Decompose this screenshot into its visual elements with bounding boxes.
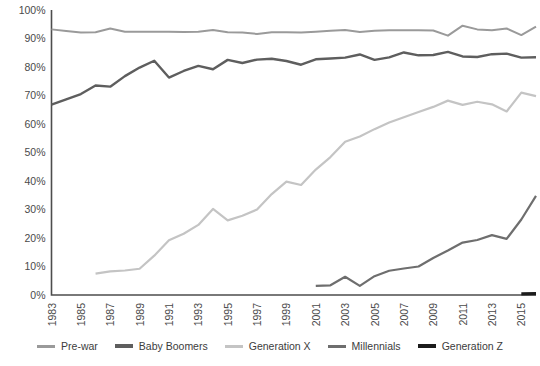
x-tick-label: 2015 xyxy=(515,303,527,327)
legend-item-label: Baby Boomers xyxy=(139,340,208,352)
axis-lines xyxy=(52,10,537,295)
x-tick-label: 2005 xyxy=(369,303,381,327)
y-tick-label: 80% xyxy=(24,61,45,73)
x-tick-label: 2001 xyxy=(310,303,322,327)
x-tick-label: 2013 xyxy=(486,303,498,327)
y-tick-label: 20% xyxy=(24,232,45,244)
legend-item-generation-x[interactable]: Generation X xyxy=(225,340,311,352)
legend-item-label: Pre-war xyxy=(61,340,98,352)
y-tick-label: 60% xyxy=(24,118,45,130)
y-tick-label: 100% xyxy=(19,4,46,16)
legend-swatch-icon xyxy=(418,344,436,348)
x-tick-label: 1995 xyxy=(222,303,234,327)
x-tick-label: 1997 xyxy=(251,303,263,327)
legend-item-label: Millennials xyxy=(352,340,401,352)
legend-item-generation-z[interactable]: Generation Z xyxy=(418,340,503,352)
series-line-baby-boomers xyxy=(52,52,537,105)
legend-item-pre-war[interactable]: Pre-war xyxy=(37,340,98,352)
y-tick-label: 70% xyxy=(24,89,45,101)
legend-item-millennials[interactable]: Millennials xyxy=(328,340,401,352)
y-tick-label: 30% xyxy=(24,203,45,215)
chart-plot-area: 0%10%20%30%40%50%60%70%80%90%100% 198319… xyxy=(0,0,540,366)
line-chart: 0%10%20%30%40%50%60%70%80%90%100% 198319… xyxy=(0,0,540,366)
x-tick-label: 2009 xyxy=(427,303,439,327)
y-tick-label: 90% xyxy=(24,32,45,44)
series-line-pre-war xyxy=(52,26,537,36)
legend-swatch-icon xyxy=(37,345,55,348)
x-axis-tick-labels: 1983198519871989199119931995199719992001… xyxy=(46,303,528,327)
x-tick-label: 1987 xyxy=(104,303,116,327)
x-tick-label: 1999 xyxy=(280,303,292,327)
y-axis-tick-labels: 0%10%20%30%40%50%60%70%80%90%100% xyxy=(19,4,46,301)
legend-swatch-icon xyxy=(328,345,346,348)
x-tick-label: 2011 xyxy=(457,303,469,326)
legend-swatch-icon xyxy=(225,345,243,348)
series-lines xyxy=(52,26,537,294)
x-tick-label: 1989 xyxy=(134,303,146,327)
chart-legend: Pre-warBaby BoomersGeneration XMillennia… xyxy=(0,336,540,356)
x-tick-label: 1991 xyxy=(163,303,175,327)
legend-item-label: Generation X xyxy=(249,340,311,352)
x-tick-label: 2003 xyxy=(339,303,351,327)
legend-item-label: Generation Z xyxy=(442,340,503,352)
x-tick-label: 1985 xyxy=(75,303,87,327)
x-tick-label: 1993 xyxy=(192,303,204,327)
y-tick-label: 40% xyxy=(24,175,45,187)
legend-item-baby-boomers[interactable]: Baby Boomers xyxy=(115,340,208,352)
x-tick-label: 1983 xyxy=(46,303,58,327)
y-tick-label: 50% xyxy=(24,146,45,158)
legend-swatch-icon xyxy=(115,344,133,348)
y-tick-label: 0% xyxy=(30,289,45,301)
series-line-generation-x xyxy=(96,93,536,274)
x-tick-label: 2007 xyxy=(398,303,410,327)
y-tick-label: 10% xyxy=(24,260,45,272)
series-line-millennials xyxy=(316,196,536,286)
